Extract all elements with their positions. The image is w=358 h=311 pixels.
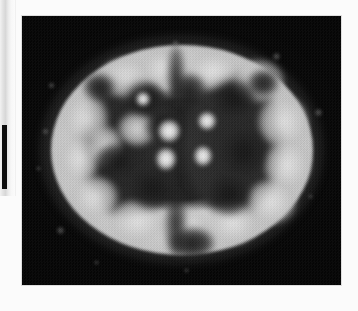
brain-volume: [22, 16, 341, 285]
scalp-speckle-8: [272, 52, 281, 61]
scalp-speckle-0: [36, 166, 41, 171]
partial-adjacent-figure: [0, 0, 16, 196]
scalp-speckle-layer: [22, 16, 341, 285]
scalp-speckle-3: [184, 268, 189, 273]
scalp-speckle-9: [94, 260, 99, 265]
scalp-speckle-2: [56, 226, 65, 235]
adjacent-figure-edge: [15, 0, 16, 196]
page-background: [0, 0, 358, 311]
scalp-speckle-1: [48, 82, 55, 89]
scalp-speckle-7: [42, 128, 49, 135]
scalp-speckle-5: [314, 108, 323, 117]
brain-scan-image: [22, 16, 341, 285]
scalp-speckle-6: [308, 194, 313, 199]
adjacent-figure-dark-bar: [2, 125, 7, 189]
scalp-speckle-4: [172, 40, 179, 47]
